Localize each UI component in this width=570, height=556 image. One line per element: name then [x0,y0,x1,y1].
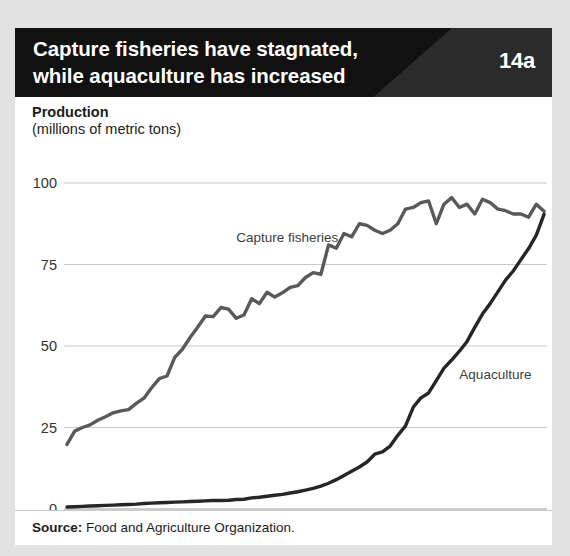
y-tick-label: 50 [41,338,57,354]
y-tick-label: 75 [41,257,57,273]
figure-card: Capture fisheries have stagnated, while … [15,28,552,545]
figure-footer: Source: Food and Agriculture Organizatio… [15,510,552,545]
source-value: Food and Agriculture Organization. [86,520,295,535]
figure-title-line-2: while aquaculture has increased [33,62,433,89]
figure-title-bar: Capture fisheries have stagnated, while … [15,28,552,97]
figure-title: Capture fisheries have stagnated, while … [33,35,433,89]
series-line [67,214,544,507]
figure-number-badge: 14a [499,48,535,74]
y-tick-label: 100 [33,175,57,191]
plot-area: Production (millions of metric tons) 025… [15,97,552,545]
series-label: Aquaculture [459,367,531,382]
page-top-cutoff-text: g g p p , g [0,0,570,14]
source-label: Source: [32,520,82,535]
figure-title-line-1: Capture fisheries have stagnated, [33,35,433,62]
series-label: Capture fisheries [236,230,338,245]
y-tick-label: 25 [41,420,57,436]
line-chart: 0255075100 1950196019701980199020002012 … [15,97,552,545]
source-note: Source: Food and Agriculture Organizatio… [32,520,295,535]
y-axis-tick-labels: 0255075100 [33,175,57,517]
